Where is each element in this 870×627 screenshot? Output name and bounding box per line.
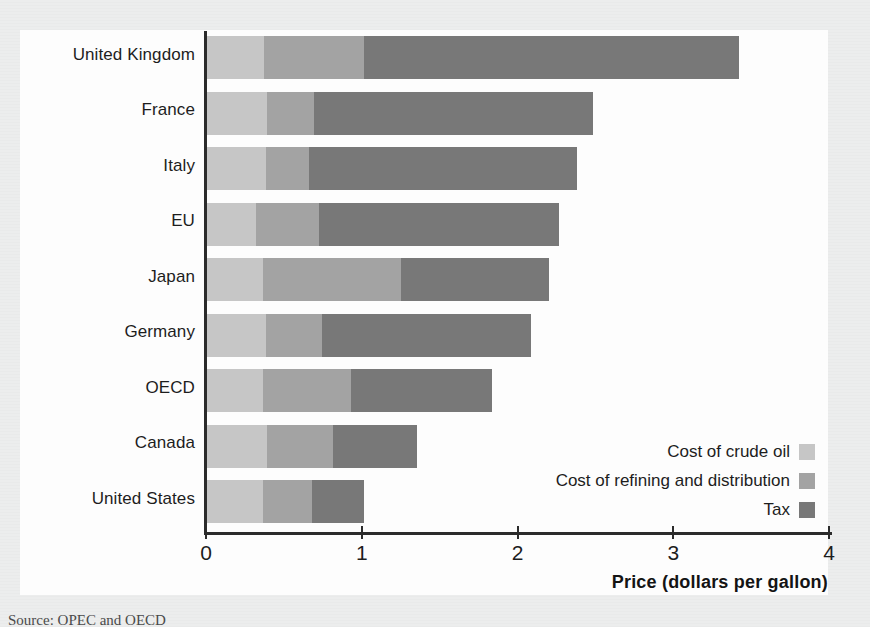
x-tick: [828, 526, 830, 539]
x-tick-label: 3: [667, 542, 679, 563]
legend-item[interactable]: Cost of crude oil: [430, 437, 815, 466]
figure-page: United KingdomFranceItalyEUJapanGermanyO…: [0, 0, 870, 627]
x-tick-label: 4: [823, 542, 835, 563]
x-axis-title: Price (dollars per gallon): [0, 572, 828, 593]
bar-segment: [266, 147, 310, 190]
bar-segment: [267, 425, 332, 468]
x-tick-label: 2: [512, 542, 524, 563]
x-tick: [361, 526, 363, 539]
legend-item[interactable]: Cost of refining and distribution: [430, 466, 815, 495]
bar-segment: [266, 314, 322, 357]
bar-segment: [267, 92, 314, 135]
category-label: France: [20, 101, 195, 118]
bar-segment: [256, 203, 318, 246]
bar-segment: [333, 425, 417, 468]
legend-swatch: [799, 444, 815, 460]
legend-label: Cost of refining and distribution: [556, 472, 790, 489]
bar-segment: [263, 369, 352, 412]
category-label: Japan: [20, 268, 195, 285]
bar-segment: [205, 92, 267, 135]
x-tick: [517, 526, 519, 539]
legend: Cost of crude oilCost of refining and di…: [430, 437, 815, 524]
bar-segment: [322, 314, 531, 357]
bar-segment: [264, 36, 364, 79]
legend-label: Cost of crude oil: [667, 443, 790, 460]
category-axis-labels: United KingdomFranceItalyEUJapanGermanyO…: [5, 30, 195, 530]
bar-segment: [205, 258, 263, 301]
x-tick: [672, 526, 674, 539]
bar-segment: [205, 147, 266, 190]
bar-segment: [314, 92, 593, 135]
bar-segment: [312, 480, 363, 523]
x-tick-label: 0: [200, 542, 212, 563]
x-tick: [205, 526, 207, 539]
bar-segment: [364, 36, 739, 79]
bar-segment: [205, 203, 256, 246]
bar-segment: [205, 425, 267, 468]
bar-segment: [205, 314, 266, 357]
category-label: EU: [20, 212, 195, 229]
bar-segment: [205, 36, 264, 79]
bar-segment: [205, 480, 263, 523]
source-caption: Source: OPEC and OECD: [8, 612, 166, 627]
category-label: United Kingdom: [20, 46, 195, 63]
bar-segment: [309, 147, 577, 190]
category-label: Canada: [20, 434, 195, 451]
legend-swatch: [799, 502, 815, 518]
bar-segment: [319, 203, 559, 246]
bar-segment: [205, 369, 263, 412]
category-label: OECD: [20, 379, 195, 396]
category-label: United States: [20, 490, 195, 507]
y-axis-line: [204, 31, 207, 534]
bar-segment: [401, 258, 549, 301]
x-tick-label: 1: [356, 542, 368, 563]
bar-segment: [263, 258, 402, 301]
category-label: Germany: [20, 323, 195, 340]
legend-swatch: [799, 473, 815, 489]
bar-segment: [351, 369, 491, 412]
category-label: Italy: [20, 157, 195, 174]
legend-item[interactable]: Tax: [430, 495, 815, 524]
bar-segment: [263, 480, 313, 523]
legend-label: Tax: [764, 501, 790, 518]
